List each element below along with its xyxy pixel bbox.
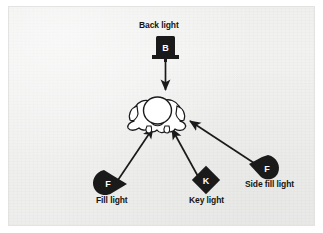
subject-animal-top-view xyxy=(128,97,186,133)
side-fill-light-label: Side fill light xyxy=(245,180,294,189)
back-light-letter: B xyxy=(162,43,169,53)
back-light-label: Back light xyxy=(139,21,179,30)
arrow-key-light-to-subject xyxy=(172,129,200,180)
diagram-canvas: B F K F xyxy=(0,0,323,233)
back-light-icon[interactable]: B xyxy=(152,36,179,62)
arrow-fill-light-to-subject xyxy=(118,128,153,180)
key-light-icon[interactable]: K xyxy=(192,166,220,194)
key-light-letter: K xyxy=(203,176,210,186)
lighting-diagram-figure: B F K F Back light Fill light Key light … xyxy=(0,0,323,233)
fill-light-letter: F xyxy=(105,179,111,189)
arrow-side-fill-light-to-subject xyxy=(190,121,254,163)
key-light-label: Key light xyxy=(189,196,224,205)
fill-light-label: Fill light xyxy=(96,196,128,205)
side-fill-light-letter: F xyxy=(264,164,270,174)
side-fill-light-icon[interactable]: F xyxy=(249,155,279,179)
